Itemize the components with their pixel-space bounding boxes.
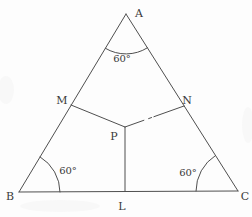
label-M: M [56, 94, 67, 107]
side-BC [19, 191, 238, 192]
label-A: A [134, 7, 144, 20]
label-C: C [241, 190, 249, 203]
segment-PN [125, 106, 184, 127]
scan-smudge-2 [242, 107, 252, 143]
segment-MP [71, 105, 125, 127]
scan-smudge-1 [20, 200, 100, 212]
angle-label-C: 60° [179, 167, 197, 178]
angle-arc-C [196, 156, 216, 192]
figure-canvas: ABCMNPL60°60°60° [0, 0, 252, 217]
angle-label-B: 60° [59, 165, 77, 176]
angle-label-A: 60° [113, 53, 131, 64]
label-L: L [118, 200, 126, 213]
scan-smudge-0 [0, 76, 14, 104]
label-B: B [6, 190, 14, 203]
angle-arc-B [40, 157, 60, 192]
triangle-diagram: ABCMNPL60°60°60° [0, 0, 252, 217]
label-P: P [110, 130, 118, 143]
label-N: N [182, 94, 192, 107]
